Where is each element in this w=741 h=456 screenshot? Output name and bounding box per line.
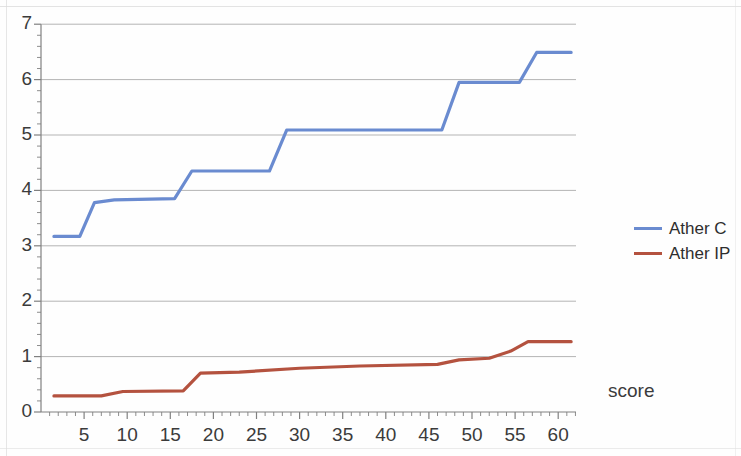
x-axis-tick-label: 20 bbox=[193, 424, 233, 446]
data-series bbox=[54, 52, 571, 395]
x-axis-tick-label: 25 bbox=[237, 424, 277, 446]
x-axis-tick-label: 15 bbox=[150, 424, 190, 446]
x-axis-tick-label: 60 bbox=[538, 424, 578, 446]
x-axis-tick-label: 30 bbox=[280, 424, 320, 446]
legend-item[interactable]: Ather IP bbox=[634, 241, 739, 266]
y-axis-tick-label: 6 bbox=[6, 68, 32, 90]
y-axis-tick-label: 7 bbox=[6, 12, 32, 34]
x-axis-ticks bbox=[50, 412, 576, 419]
gridlines bbox=[41, 24, 576, 356]
series-line-ather-ip bbox=[54, 342, 571, 396]
y-axis-tick-label: 0 bbox=[6, 400, 32, 422]
legend-item-label: Ather C bbox=[669, 219, 727, 239]
y-axis-tick-label: 2 bbox=[6, 289, 32, 311]
legend-item[interactable]: Ather C bbox=[634, 216, 739, 241]
x-axis-tick-label: 35 bbox=[323, 424, 363, 446]
y-axis-tick-label: 3 bbox=[6, 234, 32, 256]
x-axis-tick-label: 10 bbox=[107, 424, 147, 446]
y-axis-ticks bbox=[34, 24, 41, 412]
legend-item-label: Ather IP bbox=[669, 244, 730, 264]
x-axis-tick-label: 55 bbox=[495, 424, 535, 446]
line-chart: 76543210 51015202530354045505560 score A… bbox=[0, 0, 741, 456]
x-axis-tick-label: 40 bbox=[366, 424, 406, 446]
x-axis-tick-label: 5 bbox=[64, 424, 104, 446]
chart-legend: Ather CAther IP bbox=[634, 216, 739, 266]
scanned-page: 76543210 51015202530354045505560 score A… bbox=[0, 0, 741, 456]
y-axis-tick-label: 4 bbox=[6, 178, 32, 200]
y-axis-tick-label: 5 bbox=[6, 123, 32, 145]
x-axis-tick-label: 50 bbox=[452, 424, 492, 446]
legend-color-swatch bbox=[634, 227, 662, 230]
legend-color-swatch bbox=[634, 252, 662, 255]
x-axis-tick-label: 45 bbox=[409, 424, 449, 446]
y-axis-tick-label: 1 bbox=[6, 345, 32, 367]
x-axis-title: score bbox=[608, 380, 654, 402]
